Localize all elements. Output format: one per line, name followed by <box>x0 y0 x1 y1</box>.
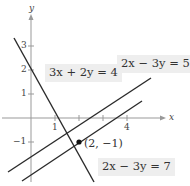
y-tick-label-1: 1 <box>21 89 27 98</box>
equation-label-3x-plus-2y: 3x + 2y = 4 <box>45 64 122 82</box>
point-label: (2, −1) <box>84 138 123 149</box>
equation-label-2x-minus-3y-5: 2x − 3y = 5 <box>117 55 190 73</box>
graph-figure: y x 1 4 3 2 1 −1 3x + 2y = 4 2x − 3y = 5… <box>0 0 190 186</box>
x-arrow-icon <box>160 116 166 121</box>
intersection-point <box>76 139 81 144</box>
y-arrow-icon <box>29 14 34 20</box>
y-tick-label-2: 2 <box>21 65 27 74</box>
x-tick-label-1: 1 <box>52 123 58 132</box>
equation-label-2x-minus-3y-7: 2x − 3y = 7 <box>98 158 175 176</box>
x-tick-label-4: 4 <box>124 123 130 132</box>
y-tick-label-neg1: −1 <box>13 137 26 146</box>
x-axis-label: x <box>169 113 174 122</box>
y-tick-label-3: 3 <box>21 41 27 50</box>
y-axis-label: y <box>29 4 34 13</box>
